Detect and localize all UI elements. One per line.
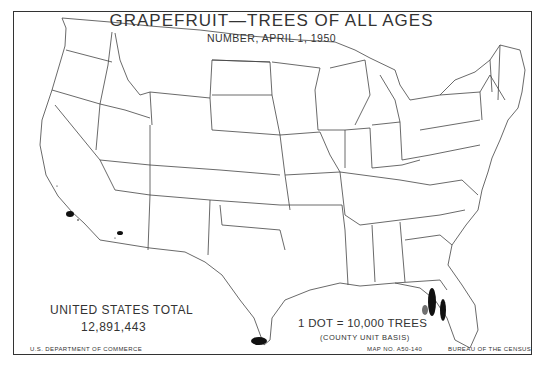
california-dots <box>66 211 74 217</box>
footer-department: U.S. DEPARTMENT OF COMMERCE <box>30 346 142 352</box>
florida-ridge-dots <box>428 288 436 316</box>
total-value: 12,891,443 <box>81 320 146 334</box>
arizona-dots <box>117 231 123 235</box>
map-subtitle: NUMBER, APRIL 1, 1950 <box>0 32 543 44</box>
florida-indian-river-dots <box>440 299 446 321</box>
footer-bureau: BUREAU OF THE CENSUS <box>448 346 531 352</box>
us-outline <box>40 18 525 348</box>
texas-rio-grande-dots <box>251 337 267 345</box>
map-title: GRAPEFRUIT—TREES OF ALL AGES <box>0 11 543 31</box>
footer-map-number: MAP NO. A50-140 <box>367 346 422 352</box>
legend-basis: (COUNTY UNIT BASIS) <box>320 333 410 342</box>
total-label: UNITED STATES TOTAL <box>50 303 193 317</box>
legend-dot-value: 1 DOT = 10,000 TREES <box>298 317 427 329</box>
